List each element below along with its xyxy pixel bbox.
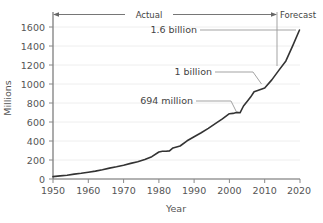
y-axis-tick-labels: 1600 1400 1200 1000 800 600 400 200 0	[21, 22, 45, 185]
y-tick-marks	[49, 27, 53, 179]
population-growth-line-chart: 1600 1400 1200 1000 800 600 400 200 0 19…	[0, 0, 323, 223]
annotation-label-694-million: 694 million	[140, 95, 193, 106]
y-axis-title: Millions	[2, 80, 13, 116]
y-tick-label-1400: 1400	[21, 41, 45, 52]
x-tick-label-1980: 1980	[147, 185, 171, 196]
annotation-label-1-billion: 1 billion	[175, 66, 213, 77]
leader-line-1-billion	[215, 72, 262, 84]
y-tick-label-600: 600	[27, 117, 45, 128]
x-tick-label-1950: 1950	[41, 185, 65, 196]
y-tick-label-1200: 1200	[21, 60, 45, 71]
x-tick-label-2020: 2020	[287, 185, 311, 196]
x-tick-label-2000: 2000	[217, 185, 241, 196]
y-tick-label-0: 0	[39, 174, 45, 185]
gridlines	[53, 27, 300, 160]
x-tick-label-1960: 1960	[76, 185, 100, 196]
x-tick-label-1990: 1990	[182, 185, 206, 196]
band-label-forecast: Forecast	[280, 10, 317, 20]
annotation-1-billion: 1 billion	[175, 66, 262, 84]
y-tick-label-200: 200	[27, 155, 45, 166]
x-axis-title: Year	[165, 203, 186, 214]
y-tick-label-800: 800	[27, 98, 45, 109]
arrow-head-left-icon	[53, 12, 59, 16]
x-tick-marks	[53, 179, 300, 183]
arrow-head-right-icon	[271, 12, 277, 16]
y-tick-label-1600: 1600	[21, 22, 45, 33]
annotation-label-1-6-billion: 1.6 billion	[150, 24, 197, 35]
y-tick-label-1000: 1000	[21, 79, 45, 90]
x-axis-tick-labels: 1950 1960 1970 1980 1990 2000 2010 2020	[41, 185, 311, 196]
band-label-actual: Actual	[136, 10, 163, 20]
chart-container: 1600 1400 1200 1000 800 600 400 200 0 19…	[0, 0, 323, 223]
x-tick-label-2010: 2010	[253, 185, 277, 196]
y-tick-label-400: 400	[27, 136, 45, 147]
annotation-1-6-billion: 1.6 billion	[150, 24, 296, 35]
x-tick-label-1970: 1970	[112, 185, 136, 196]
